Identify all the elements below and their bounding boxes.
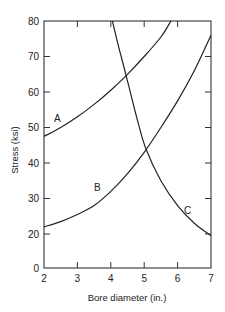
curve-label-b: B [94, 182, 101, 193]
x-tick-label: 7 [208, 273, 214, 284]
x-tick-label: 3 [75, 273, 81, 284]
y-tick-label: 50 [28, 122, 40, 133]
x-tick-label: 2 [41, 273, 47, 284]
plot-border [44, 21, 211, 268]
y-tick-label: 80 [28, 16, 40, 27]
curve-label-a: A [54, 113, 61, 124]
y-axis-ticks: 020304050607080 [28, 16, 211, 274]
x-tick-label: 6 [175, 273, 181, 284]
curve-a [44, 21, 171, 136]
y-tick-label: 70 [28, 51, 40, 62]
curve-label-c: C [184, 205, 191, 216]
plot-frame [44, 21, 211, 268]
y-tick-label: 40 [28, 158, 40, 169]
stress-vs-bore-chart: 234567 020304050607080 ABC Bore diameter… [0, 0, 225, 312]
curve-c [113, 21, 212, 236]
x-tick-label: 4 [108, 273, 114, 284]
y-tick-label: 20 [28, 229, 40, 240]
curves [44, 21, 211, 236]
y-tick-label: 0 [33, 263, 39, 274]
y-tick-label: 60 [28, 87, 40, 98]
curve-labels: ABC [54, 113, 191, 216]
y-tick-label: 30 [28, 193, 40, 204]
x-axis-title: Bore diameter (in.) [88, 292, 167, 303]
curve-b [44, 35, 211, 227]
y-axis-title: Stress (ksi) [9, 126, 20, 174]
x-tick-label: 5 [141, 273, 147, 284]
x-axis-ticks: 234567 [41, 21, 214, 284]
